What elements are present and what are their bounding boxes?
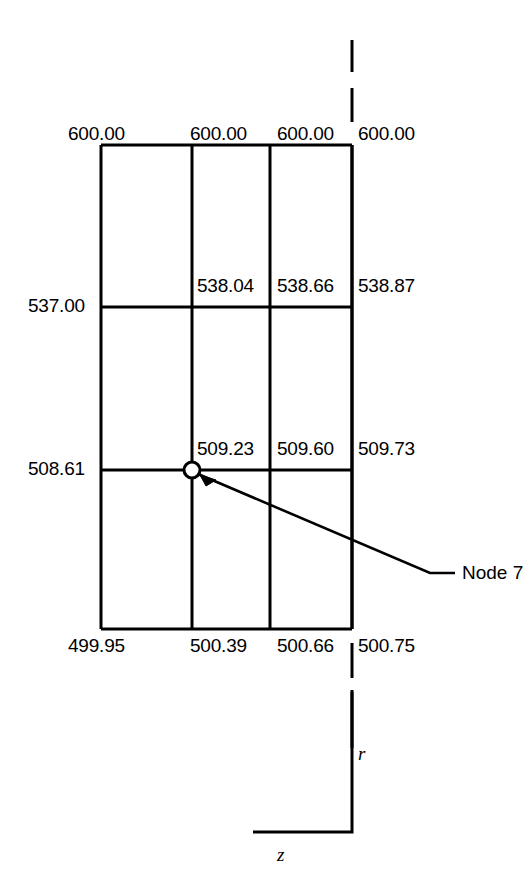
figure-canvas: Appendix 600.00 6 [0,0,531,889]
mesh-value-bottom-3: 500.75 [358,636,415,655]
mesh-value-second-0: 537.00 [28,296,85,315]
axis-label-r: r [358,744,365,763]
mesh-value-bottom-2: 500.66 [277,636,334,655]
node-callout-label: Node 7 [462,563,523,582]
mesh-value-bottom-1: 500.39 [190,636,247,655]
node-marker-group [184,462,200,478]
node-arrowhead-icon [200,475,216,486]
mesh-value-third-2: 509.60 [277,439,334,458]
axis-corner-line [253,690,352,832]
mesh-value-top-0: 600.00 [68,124,125,143]
axis-label-z: z [277,845,284,864]
node-circle-icon [184,462,200,478]
mesh-value-second-3: 538.87 [358,276,415,295]
node-leader-line [198,474,455,573]
mesh-value-second-1: 538.04 [197,276,254,295]
mesh-value-third-0: 508.61 [28,459,85,478]
mesh-value-top-1: 600.00 [190,124,247,143]
mesh-value-third-3: 509.73 [358,439,415,458]
coordinate-axes [253,690,352,832]
node-leader-line-group [198,474,455,573]
mesh-value-top-3: 600.00 [358,124,415,143]
mesh-grid-lines [101,145,352,629]
mesh-value-second-2: 538.66 [277,276,334,295]
mesh-value-top-2: 600.00 [277,124,334,143]
mesh-value-bottom-0: 499.95 [68,636,125,655]
mesh-value-third-1: 509.23 [197,439,254,458]
